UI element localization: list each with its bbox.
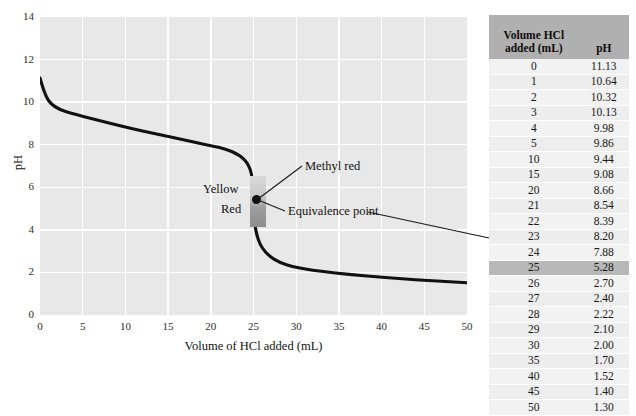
table-row: 218.54 <box>489 198 629 214</box>
header-volume-line1: Volume HCl <box>503 29 564 41</box>
cell-ph: 2.22 <box>579 307 629 323</box>
table-row: 208.66 <box>489 183 629 199</box>
table-row: 228.39 <box>489 214 629 230</box>
y-tick-0: 0 <box>0 309 34 320</box>
cell-volume: 35 <box>489 353 579 369</box>
cell-ph: 8.54 <box>579 198 629 214</box>
cell-volume: 2 <box>489 90 579 106</box>
table-row: 351.70 <box>489 353 629 369</box>
table-header-volume: Volume HCl added (mL) <box>489 15 579 59</box>
cell-volume: 26 <box>489 276 579 292</box>
x-axis-title: Volume of HCl added (mL) <box>40 339 467 354</box>
cell-ph: 10.64 <box>579 74 629 90</box>
cell-ph: 1.70 <box>579 353 629 369</box>
y-axis-ticks: 14 12 10 8 6 4 2 0 <box>0 0 480 371</box>
table-row: 159.08 <box>489 167 629 183</box>
cell-ph: 2.10 <box>579 322 629 338</box>
y-tick-2: 2 <box>0 266 34 277</box>
table-row: 292.10 <box>489 322 629 338</box>
table-row: 451.40 <box>489 384 629 400</box>
cell-ph: 7.88 <box>579 245 629 261</box>
indicator-red-label: Red <box>221 203 241 216</box>
titration-chart: 14 12 10 8 6 4 2 0 0 5 10 15 20 25 30 35… <box>0 0 480 371</box>
equivalence-point-marker <box>252 195 261 204</box>
table-row: 247.88 <box>489 245 629 261</box>
table-row: 49.98 <box>489 121 629 137</box>
table-row: 110.64 <box>489 74 629 90</box>
table-row: 272.40 <box>489 291 629 307</box>
x-tick-35: 35 <box>324 320 354 332</box>
cell-ph: 8.66 <box>579 183 629 199</box>
cell-volume: 15 <box>489 167 579 183</box>
cell-ph: 5.28 <box>579 260 629 276</box>
cell-ph: 1.30 <box>579 400 629 416</box>
header-volume-line2: added (mL) <box>505 42 563 54</box>
table-row: 501.30 <box>489 400 629 416</box>
cell-volume: 24 <box>489 245 579 261</box>
cell-volume: 0 <box>489 59 579 74</box>
cell-volume: 3 <box>489 105 579 121</box>
cell-volume: 25 <box>489 260 579 276</box>
cell-ph: 10.32 <box>579 90 629 106</box>
titration-data-table: Volume HCl added (mL) pH 011.13110.64210… <box>489 15 629 416</box>
x-tick-10: 10 <box>110 320 140 332</box>
table-row: 262.70 <box>489 276 629 292</box>
table-row: 282.22 <box>489 307 629 323</box>
x-tick-20: 20 <box>196 320 226 332</box>
cell-volume: 50 <box>489 400 579 416</box>
table-row: 210.32 <box>489 90 629 106</box>
indicator-yellow-label: Yellow <box>203 183 239 196</box>
x-axis-ticks: 0 5 10 15 20 25 30 35 40 45 50 <box>40 320 467 336</box>
equivalence-point-label: Equivalence point <box>288 205 379 218</box>
x-tick-50: 50 <box>452 320 482 332</box>
cell-volume: 27 <box>489 291 579 307</box>
table-row: 310.13 <box>489 105 629 121</box>
cell-volume: 30 <box>489 338 579 354</box>
cell-volume: 21 <box>489 198 579 214</box>
x-tick-40: 40 <box>367 320 397 332</box>
cell-volume: 28 <box>489 307 579 323</box>
table-row: 255.28 <box>489 260 629 276</box>
table-row: 109.44 <box>489 152 629 168</box>
cell-ph: 8.39 <box>579 214 629 230</box>
cell-volume: 23 <box>489 229 579 245</box>
cell-ph: 9.08 <box>579 167 629 183</box>
x-tick-5: 5 <box>68 320 98 332</box>
cell-ph: 9.44 <box>579 152 629 168</box>
methyl-red-label: Methyl red <box>305 160 360 173</box>
cell-ph: 8.20 <box>579 229 629 245</box>
cell-volume: 20 <box>489 183 579 199</box>
y-tick-12: 12 <box>0 54 34 65</box>
x-tick-30: 30 <box>281 320 311 332</box>
cell-ph: 9.98 <box>579 121 629 137</box>
y-axis-title: pH <box>11 143 26 183</box>
cell-volume: 40 <box>489 369 579 385</box>
table-row: 238.20 <box>489 229 629 245</box>
x-tick-0: 0 <box>25 320 55 332</box>
x-tick-15: 15 <box>153 320 183 332</box>
cell-ph: 9.86 <box>579 136 629 152</box>
cell-ph: 2.70 <box>579 276 629 292</box>
cell-ph: 2.40 <box>579 291 629 307</box>
cell-ph: 11.13 <box>579 59 629 74</box>
y-tick-6: 6 <box>0 181 34 192</box>
cell-volume: 1 <box>489 74 579 90</box>
cell-volume: 22 <box>489 214 579 230</box>
cell-ph: 1.40 <box>579 384 629 400</box>
y-tick-14: 14 <box>0 11 34 22</box>
table-row: 011.13 <box>489 59 629 74</box>
cell-volume: 10 <box>489 152 579 168</box>
cell-volume: 5 <box>489 136 579 152</box>
y-tick-10: 10 <box>0 96 34 107</box>
table-row: 59.86 <box>489 136 629 152</box>
cell-volume: 4 <box>489 121 579 137</box>
table-row: 302.00 <box>489 338 629 354</box>
x-tick-25: 25 <box>239 320 269 332</box>
table-body: 011.13110.64210.32310.1349.9859.86109.44… <box>489 59 629 415</box>
cell-ph: 10.13 <box>579 105 629 121</box>
cell-volume: 45 <box>489 384 579 400</box>
table-header-row: Volume HCl added (mL) pH <box>489 15 629 59</box>
table-header-ph: pH <box>579 15 629 59</box>
x-tick-45: 45 <box>409 320 439 332</box>
